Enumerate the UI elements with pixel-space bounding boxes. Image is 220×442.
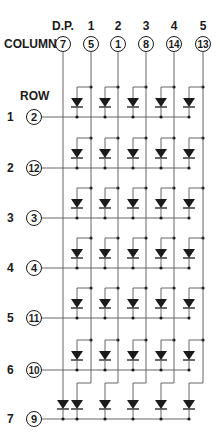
junction-dot <box>187 166 190 169</box>
diode-icon <box>71 299 83 308</box>
junction-dot <box>159 368 162 371</box>
row-pin-number: 3 <box>31 212 37 224</box>
diode-icon <box>183 351 195 360</box>
diode-icon <box>99 98 111 107</box>
anode-lead <box>133 138 146 149</box>
diode-icon <box>71 400 83 409</box>
row-heading: ROW <box>20 89 50 103</box>
anode-lead <box>189 87 203 98</box>
diode-icon <box>127 98 139 107</box>
anode-lead <box>133 238 146 249</box>
row-pin-number: 12 <box>28 163 40 174</box>
anode-lead <box>105 188 118 199</box>
anode-lead <box>77 138 91 149</box>
anode-lead <box>133 188 146 199</box>
anode-lead <box>105 238 118 249</box>
junction-dot <box>187 368 190 371</box>
diode-icon <box>99 249 111 258</box>
row-label: 5 <box>7 311 14 325</box>
diode-icon <box>183 249 195 258</box>
column-header: COLUMND.P.7152138414513 <box>4 19 211 52</box>
junction-dot <box>103 368 106 371</box>
led-matrix-schematic: COLUMND.P.7152138414513 ROW1221233445116… <box>0 0 220 442</box>
anode-lead <box>189 288 203 299</box>
junction-dot <box>159 417 162 420</box>
anode-lead <box>133 288 146 299</box>
anode-lead <box>161 340 174 351</box>
dp-diode-icon <box>57 400 69 409</box>
junction-dot <box>75 115 78 118</box>
anode-lead <box>133 383 146 400</box>
column-label: 1 <box>88 19 95 33</box>
column-pin-number: 8 <box>143 38 149 50</box>
column-pin-number: 7 <box>60 38 66 50</box>
diode-icon <box>71 199 83 208</box>
diode-icon <box>155 199 167 208</box>
diode-icon <box>155 98 167 107</box>
junction-dot <box>159 166 162 169</box>
junction-dot <box>159 216 162 219</box>
anode-lead <box>161 383 174 400</box>
row-label: 3 <box>7 211 14 225</box>
row-labels: ROW12212334451161079 <box>7 89 50 427</box>
diode-icon <box>155 249 167 258</box>
junction-dot <box>103 316 106 319</box>
junction-dot <box>75 316 78 319</box>
row-label: 7 <box>7 412 14 426</box>
junction-dot <box>159 316 162 319</box>
anode-lead <box>77 383 91 400</box>
diode-icon <box>99 400 111 409</box>
anode-lead <box>105 340 118 351</box>
column-pin-number: 14 <box>168 39 180 50</box>
diode-icon <box>155 149 167 158</box>
diode-icon <box>127 351 139 360</box>
column-pin-number: 13 <box>197 39 209 50</box>
anode-lead <box>77 188 91 199</box>
column-label: 2 <box>115 19 122 33</box>
anode-lead <box>189 238 203 249</box>
diode-icon <box>183 400 195 409</box>
junction-dot <box>75 417 78 420</box>
junction-dot <box>131 266 134 269</box>
diode-icon <box>71 98 83 107</box>
anode-lead <box>77 288 91 299</box>
anode-lead <box>77 87 91 98</box>
diode-icon <box>127 199 139 208</box>
anode-lead <box>133 340 146 351</box>
junction-dot <box>131 368 134 371</box>
column-label: 5 <box>200 19 207 33</box>
junction-dot <box>131 216 134 219</box>
anode-lead <box>189 383 203 400</box>
junction-dot <box>131 166 134 169</box>
column-heading: COLUMN <box>4 37 57 51</box>
diode-icon <box>71 249 83 258</box>
anode-lead <box>77 340 91 351</box>
junction-dot <box>187 316 190 319</box>
anode-lead <box>189 138 203 149</box>
junction-dot <box>187 417 190 420</box>
junction-dot <box>131 417 134 420</box>
column-label: 3 <box>143 19 150 33</box>
diode-icon <box>183 98 195 107</box>
junction-dot <box>187 216 190 219</box>
junction-dot <box>187 115 190 118</box>
diode-icon <box>127 249 139 258</box>
row-label: 1 <box>7 110 14 124</box>
diode-icon <box>71 149 83 158</box>
diode-icon <box>99 299 111 308</box>
diode-icon <box>127 299 139 308</box>
diode-icon <box>183 199 195 208</box>
junction-dot <box>75 166 78 169</box>
junction-dot <box>159 266 162 269</box>
diode-icon <box>155 400 167 409</box>
anode-lead <box>189 188 203 199</box>
junction-dot <box>103 166 106 169</box>
row-pin-number: 4 <box>31 262 38 274</box>
diode-icon <box>183 149 195 158</box>
anode-lead <box>161 238 174 249</box>
column-label: D.P. <box>52 19 74 33</box>
row-pin-number: 2 <box>31 111 37 123</box>
anode-lead <box>161 188 174 199</box>
junction-dot <box>159 115 162 118</box>
junction-dot <box>131 115 134 118</box>
